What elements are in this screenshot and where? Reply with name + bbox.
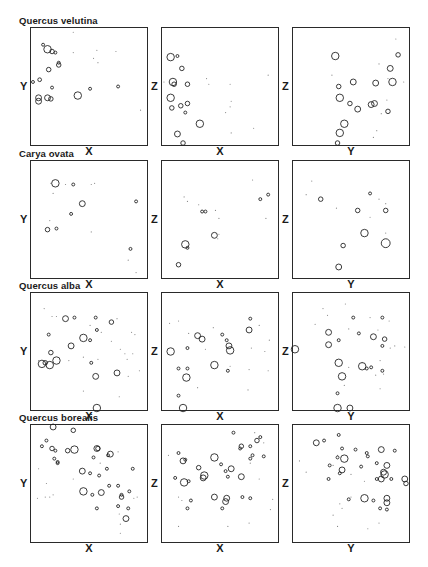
data-circle <box>196 120 203 127</box>
data-circle <box>128 490 131 493</box>
data-circle <box>109 320 114 325</box>
data-circle <box>366 455 369 458</box>
data-dot <box>133 498 134 499</box>
data-circle <box>352 316 355 319</box>
scatter-plot <box>162 161 278 278</box>
x-axis-label: Y <box>341 410 361 422</box>
data-circle <box>357 332 360 335</box>
data-dot <box>383 374 384 375</box>
data-circle <box>341 243 346 248</box>
data-circle <box>327 478 330 481</box>
y-axis-label: Z <box>282 213 289 225</box>
scatter-panel <box>161 27 279 146</box>
data-circle <box>177 452 180 455</box>
data-circle <box>336 456 339 459</box>
data-circle <box>211 361 218 368</box>
data-circle <box>241 496 244 499</box>
data-dot <box>83 391 84 392</box>
data-circle <box>341 455 348 462</box>
data-dot <box>331 75 332 76</box>
data-dot <box>311 180 312 181</box>
data-circle <box>336 94 343 101</box>
data-circle <box>326 329 332 335</box>
data-circle <box>378 447 384 453</box>
data-circle <box>262 455 265 458</box>
species-label: Quercus velutina <box>19 15 98 26</box>
data-dot <box>94 183 95 184</box>
data-circle <box>381 239 390 248</box>
scatter-panel <box>161 424 279 543</box>
data-circle <box>249 317 252 320</box>
data-circle <box>117 484 120 487</box>
data-circle <box>382 337 387 342</box>
data-circle <box>375 478 378 481</box>
data-circle <box>251 454 254 457</box>
data-circle <box>54 449 57 452</box>
data-circle <box>95 328 98 331</box>
data-circle <box>224 470 227 473</box>
data-circle <box>350 79 356 85</box>
data-dot <box>91 184 92 185</box>
data-circle <box>211 232 217 238</box>
data-circle <box>204 210 207 213</box>
data-circle <box>361 495 368 502</box>
scatter-plot <box>31 293 147 410</box>
data-circle <box>211 454 218 461</box>
scatter-plot <box>162 425 278 542</box>
data-circle <box>226 347 233 354</box>
data-circle <box>365 452 368 455</box>
data-dot <box>269 340 270 341</box>
data-dot <box>315 324 316 325</box>
scatter-panel <box>30 27 148 146</box>
data-circle <box>211 494 217 500</box>
data-circle <box>238 474 244 480</box>
data-circle <box>370 334 376 340</box>
cropped-text-line <box>0 0 428 6</box>
data-circle <box>31 81 34 84</box>
data-circle <box>223 499 229 505</box>
data-dot <box>217 238 218 239</box>
data-circle <box>65 448 70 453</box>
data-dot <box>115 51 116 52</box>
data-dot <box>390 347 391 348</box>
data-dot <box>53 193 54 194</box>
data-dot <box>394 345 395 346</box>
data-dot <box>336 208 337 209</box>
data-dot <box>264 351 265 352</box>
data-dot <box>51 316 52 317</box>
data-circle <box>332 52 339 59</box>
data-circle <box>89 87 92 90</box>
data-circle <box>74 92 81 99</box>
scatter-panel <box>161 292 279 411</box>
data-circle <box>167 348 174 355</box>
data-dot <box>378 523 379 524</box>
data-dot <box>197 387 198 388</box>
data-circle <box>199 336 205 342</box>
data-circle <box>50 424 56 430</box>
data-circle <box>89 339 92 342</box>
scatter-plot <box>293 425 409 542</box>
data-dot <box>83 357 84 358</box>
data-dot <box>128 260 129 261</box>
data-dot <box>268 370 269 371</box>
data-circle <box>79 201 85 207</box>
data-circle <box>360 465 363 468</box>
data-dot <box>100 463 101 464</box>
data-circle <box>45 439 48 442</box>
data-circle <box>53 457 56 460</box>
data-circle <box>176 55 179 58</box>
data-circle <box>341 120 348 127</box>
data-dot <box>350 496 351 497</box>
data-circle <box>385 508 388 511</box>
data-circle <box>390 478 393 481</box>
data-circle <box>123 516 129 522</box>
data-circle <box>259 436 262 439</box>
data-circle <box>355 208 360 213</box>
data-circle <box>55 227 58 230</box>
data-dot <box>341 508 342 509</box>
y-axis-label: Z <box>282 80 289 92</box>
data-circle <box>336 392 339 395</box>
data-circle <box>53 357 60 364</box>
data-dot <box>230 84 231 85</box>
data-circle <box>393 449 396 452</box>
